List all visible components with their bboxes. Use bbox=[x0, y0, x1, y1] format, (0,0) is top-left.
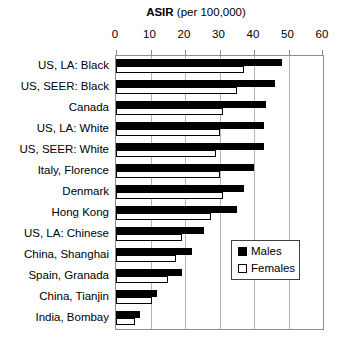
bar-females bbox=[116, 192, 223, 199]
bar-males bbox=[116, 311, 140, 318]
category-label: US, SEER: White bbox=[0, 139, 109, 160]
category-label: Denmark bbox=[0, 181, 109, 202]
x-axis-tick-label: 50 bbox=[281, 28, 294, 40]
bar-males bbox=[116, 101, 266, 108]
x-axis-tick-label: 40 bbox=[247, 28, 260, 40]
category-label: US, LA: Chinese bbox=[0, 223, 109, 244]
chart-title-units: (per 100,000) bbox=[174, 6, 246, 18]
bar-females bbox=[116, 108, 223, 115]
bar-males bbox=[116, 143, 264, 150]
chart-title-acronym: ASIR bbox=[146, 6, 173, 18]
bar-row bbox=[116, 77, 323, 98]
bar-males bbox=[116, 185, 244, 192]
x-axis-tick-label: 60 bbox=[316, 28, 329, 40]
bar-row bbox=[116, 182, 323, 203]
category-label: Spain, Granada bbox=[0, 265, 109, 286]
category-label: US, LA: White bbox=[0, 118, 109, 139]
females-swatch-icon bbox=[238, 264, 247, 273]
bar-females bbox=[116, 255, 176, 262]
bar-males bbox=[116, 164, 254, 171]
legend-label-males: Males bbox=[251, 245, 282, 257]
category-label: Italy, Florence bbox=[0, 160, 109, 181]
x-axis-tick-label: 30 bbox=[212, 28, 225, 40]
bar-males bbox=[116, 269, 182, 276]
bar-females bbox=[116, 234, 182, 241]
bar-row bbox=[116, 203, 323, 224]
category-label: Hong Kong bbox=[0, 202, 109, 223]
bar-males bbox=[116, 227, 204, 234]
bar-males bbox=[116, 122, 264, 129]
males-swatch-icon bbox=[238, 247, 247, 256]
bar-females bbox=[116, 87, 237, 94]
category-label: Canada bbox=[0, 97, 109, 118]
category-label: India, Bombay bbox=[0, 307, 109, 328]
bar-males bbox=[116, 80, 275, 87]
bar-row bbox=[116, 119, 323, 140]
bar-females bbox=[116, 171, 220, 178]
bar-males bbox=[116, 59, 282, 66]
bar-females bbox=[116, 297, 152, 304]
bar-females bbox=[116, 129, 220, 136]
category-label: China, Tianjin bbox=[0, 286, 109, 307]
bar-row bbox=[116, 98, 323, 119]
category-label: US, SEER: Black bbox=[0, 76, 109, 97]
bar-row bbox=[116, 140, 323, 161]
bar-females bbox=[116, 276, 168, 283]
bar-males bbox=[116, 290, 157, 297]
legend-label-females: Females bbox=[251, 262, 295, 274]
bar-chart: ASIR (per 100,000) 0102030405060 US, LA:… bbox=[0, 0, 339, 343]
bar-females bbox=[116, 213, 211, 220]
category-label: China, Shanghai bbox=[0, 244, 109, 265]
x-axis-tick-label: 20 bbox=[178, 28, 191, 40]
bar-males bbox=[116, 206, 237, 213]
bar-row bbox=[116, 56, 323, 77]
plot-area bbox=[115, 55, 324, 330]
x-axis-tick-label: 10 bbox=[143, 28, 156, 40]
chart-title: ASIR (per 100,000) bbox=[96, 6, 296, 18]
legend: Males Females bbox=[231, 240, 300, 280]
bar-row bbox=[116, 161, 323, 182]
bar-females bbox=[116, 150, 216, 157]
bar-females bbox=[116, 318, 135, 325]
bar-females bbox=[116, 66, 244, 73]
bar-row bbox=[116, 287, 323, 308]
category-label: US, LA: Black bbox=[0, 55, 109, 76]
x-axis-tick-label: 0 bbox=[112, 28, 118, 40]
bar-males bbox=[116, 248, 192, 255]
bar-row bbox=[116, 308, 323, 329]
legend-item-females: Females bbox=[238, 262, 294, 274]
legend-item-males: Males bbox=[238, 245, 294, 257]
